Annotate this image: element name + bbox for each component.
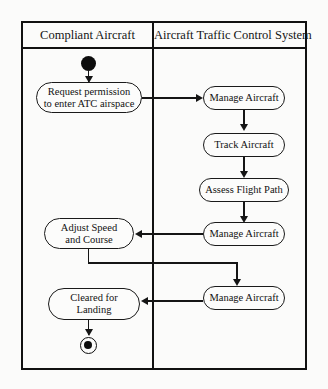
arrowhead-into-final-node [85, 329, 93, 336]
action-manage-aircraft-2-label: Manage Aircraft [209, 228, 278, 240]
swimlane-header-compliant-aircraft: Compliant Aircraft [23, 24, 152, 46]
flow-manage2-to-adjust [141, 233, 203, 235]
action-cleared-for-landing[interactable]: Cleared for Landing [48, 288, 140, 320]
action-cleared-for-landing-line1: Cleared for [70, 292, 118, 303]
arrowhead-into-manage-aircraft-3 [233, 279, 241, 286]
action-manage-aircraft-3[interactable]: Manage Aircraft [203, 286, 285, 310]
swimlane-divider [152, 21, 154, 370]
flow-request-to-manage1 [142, 97, 198, 99]
action-adjust-speed-line2: and Course [65, 234, 113, 245]
action-cleared-for-landing-line2: Landing [77, 304, 112, 315]
action-manage-aircraft-1[interactable]: Manage Aircraft [203, 86, 285, 110]
flow-manage3-to-cleared [147, 300, 203, 302]
arrowhead-into-assess-flight-path [240, 171, 248, 178]
flow-adjust-across [88, 262, 238, 264]
action-request-permission-line2: to enter ATC airspace [44, 98, 135, 109]
action-manage-aircraft-2[interactable]: Manage Aircraft [203, 222, 285, 246]
swimlane-header-rule [21, 47, 307, 49]
swimlane-header-atc-system: Aircraft Traffic Control System [154, 24, 306, 46]
action-manage-aircraft-3-label: Manage Aircraft [209, 292, 278, 304]
activity-diagram-canvas: Compliant Aircraft Aircraft Traffic Cont… [0, 0, 328, 389]
action-assess-flight-path[interactable]: Assess Flight Path [199, 178, 289, 202]
action-request-permission-line1: Request permission [48, 86, 131, 97]
action-assess-flight-path-label: Assess Flight Path [205, 184, 283, 196]
action-adjust-speed-and-course[interactable]: Adjust Speed and Course [44, 218, 134, 249]
arrowhead-into-manage-aircraft-1 [196, 94, 203, 102]
action-track-aircraft-label: Track Aircraft [214, 139, 273, 151]
action-track-aircraft[interactable]: Track Aircraft [203, 133, 285, 157]
initial-node [81, 56, 96, 71]
action-adjust-speed-line1: Adjust Speed [61, 222, 117, 233]
action-request-permission[interactable]: Request permission to enter ATC airspace [36, 82, 142, 113]
flow-adjust-drop [88, 249, 90, 263]
arrowhead-into-cleared-for-landing [141, 297, 148, 305]
final-node [80, 337, 97, 354]
action-manage-aircraft-1-label: Manage Aircraft [209, 92, 278, 104]
arrowhead-into-track-aircraft [240, 124, 248, 131]
arrowhead-into-adjust-speed [135, 230, 142, 238]
